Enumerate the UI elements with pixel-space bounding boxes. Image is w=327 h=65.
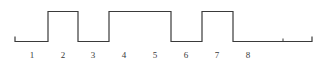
signal-trace: [15, 12, 312, 42]
bit-label-4: 4: [118, 50, 130, 61]
bit-label-1: 1: [26, 50, 38, 61]
bit-label-2: 2: [57, 50, 69, 61]
waveform-figure: 1 2 3 4 5 6 7 8: [0, 0, 327, 65]
bit-label-6: 6: [180, 50, 192, 61]
waveform-plot: [0, 0, 327, 65]
bit-label-7: 7: [211, 50, 223, 61]
bit-label-5: 5: [149, 50, 161, 61]
bit-label-3: 3: [87, 50, 99, 61]
bit-label-8: 8: [242, 50, 254, 61]
